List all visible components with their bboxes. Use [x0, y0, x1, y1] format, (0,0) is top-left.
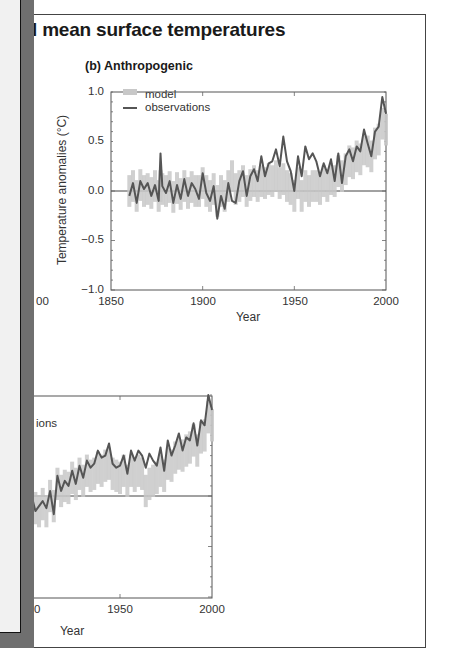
top-chart	[111, 89, 386, 290]
charts-svg	[0, 0, 450, 669]
top-model-band	[129, 108, 386, 217]
overlay-panel-shadow	[21, 0, 34, 648]
overlay-panel-shadow-bottom	[0, 633, 34, 648]
legend-model-swatch	[123, 89, 137, 95]
overlay-panel[interactable]	[0, 0, 21, 633]
